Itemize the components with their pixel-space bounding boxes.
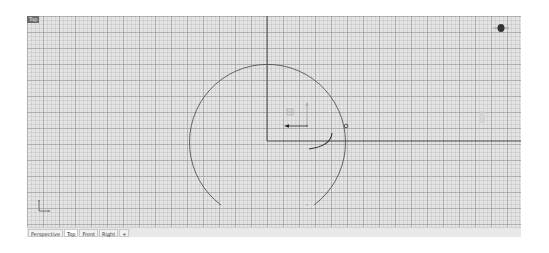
viewport-title-label[interactable]: Top: [27, 16, 39, 23]
top-viewport[interactable]: Top: [27, 16, 521, 227]
tab-front[interactable]: Front: [79, 229, 98, 237]
tab-top[interactable]: Top: [64, 229, 78, 237]
point-object[interactable]: [306, 204, 308, 206]
control-point-icon[interactable]: [344, 124, 348, 128]
faint-object: [480, 111, 485, 123]
compass-icon[interactable]: [493, 22, 509, 34]
cad-application: Top Perspective Top Front Right +: [0, 0, 549, 253]
viewport-scene[interactable]: [27, 16, 521, 227]
world-axes-icon: [38, 200, 50, 212]
large-arc-curve[interactable]: [190, 64, 346, 205]
gumball-widget[interactable]: [284, 102, 309, 128]
gumball-origin[interactable]: [306, 125, 308, 127]
viewport-tab-bar: Perspective Top Front Right +: [27, 227, 521, 237]
tab-perspective[interactable]: Perspective: [28, 229, 63, 237]
tab-right[interactable]: Right: [99, 229, 118, 237]
add-viewport-tab-button[interactable]: +: [119, 229, 129, 237]
